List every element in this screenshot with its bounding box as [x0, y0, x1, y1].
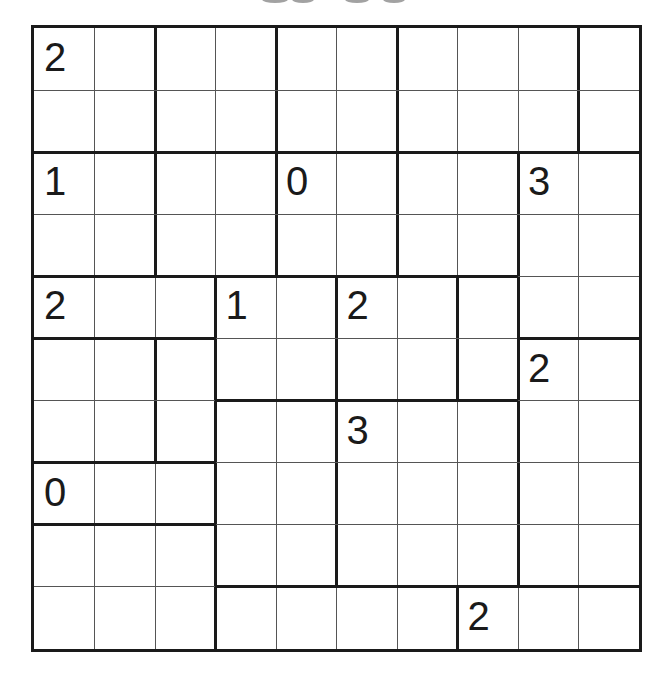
- grid-cell[interactable]: [397, 463, 458, 525]
- grid-cell[interactable]: [518, 28, 579, 90]
- grid-cell[interactable]: [458, 90, 519, 152]
- grid-cell[interactable]: [397, 587, 458, 649]
- grid-cell[interactable]: [95, 90, 156, 152]
- grid-cell[interactable]: [337, 152, 398, 214]
- grid-cell[interactable]: 1: [34, 152, 95, 214]
- grid-cell[interactable]: [34, 214, 95, 276]
- grid-cell[interactable]: [155, 339, 216, 401]
- grid-cell[interactable]: [155, 214, 216, 276]
- grid-cell[interactable]: [216, 90, 277, 152]
- grid-cell[interactable]: 2: [337, 276, 398, 338]
- grid-cell[interactable]: [518, 525, 579, 587]
- grid-cell[interactable]: [155, 90, 216, 152]
- grid-cell[interactable]: [337, 587, 398, 649]
- grid-cell[interactable]: [337, 339, 398, 401]
- grid-cell[interactable]: [337, 28, 398, 90]
- grid-cell[interactable]: [397, 90, 458, 152]
- grid-cell[interactable]: [34, 401, 95, 463]
- grid-cell[interactable]: [337, 214, 398, 276]
- grid-cell[interactable]: [276, 525, 337, 587]
- grid-cell[interactable]: [95, 276, 156, 338]
- grid-cell[interactable]: [276, 276, 337, 338]
- grid-cell[interactable]: [216, 525, 277, 587]
- grid-cell[interactable]: 3: [518, 152, 579, 214]
- grid-cell[interactable]: [397, 401, 458, 463]
- grid-cell[interactable]: [458, 339, 519, 401]
- grid-cell[interactable]: [276, 463, 337, 525]
- grid-cell[interactable]: [458, 214, 519, 276]
- grid-cell[interactable]: [34, 90, 95, 152]
- grid-cell[interactable]: [34, 525, 95, 587]
- grid-cell[interactable]: [95, 525, 156, 587]
- grid-cell[interactable]: 1: [216, 276, 277, 338]
- grid-cell[interactable]: [458, 276, 519, 338]
- grid-cell[interactable]: 2: [458, 587, 519, 649]
- grid-cell[interactable]: [155, 152, 216, 214]
- grid-cell[interactable]: [518, 463, 579, 525]
- grid-cell[interactable]: [216, 152, 277, 214]
- grid-cell[interactable]: [397, 339, 458, 401]
- grid-cell[interactable]: [397, 152, 458, 214]
- grid-cell[interactable]: [458, 28, 519, 90]
- grid-cell[interactable]: [579, 463, 640, 525]
- grid-cell[interactable]: [579, 276, 640, 338]
- grid-cell[interactable]: [276, 401, 337, 463]
- grid-cell[interactable]: [155, 28, 216, 90]
- grid-cell[interactable]: [518, 276, 579, 338]
- grid-cell[interactable]: [518, 214, 579, 276]
- grid-cell[interactable]: [155, 587, 216, 649]
- grid-cell[interactable]: [579, 28, 640, 90]
- grid-cell[interactable]: [276, 28, 337, 90]
- grid-cell[interactable]: [95, 152, 156, 214]
- grid-cell[interactable]: [579, 525, 640, 587]
- grid-cell[interactable]: [337, 525, 398, 587]
- grid-cell[interactable]: [216, 214, 277, 276]
- grid-cell[interactable]: [397, 28, 458, 90]
- grid-cell[interactable]: [579, 90, 640, 152]
- grid-cell[interactable]: [216, 339, 277, 401]
- grid-cell[interactable]: [579, 587, 640, 649]
- grid-cell[interactable]: [276, 587, 337, 649]
- grid-cell[interactable]: [337, 90, 398, 152]
- grid-cell[interactable]: [518, 401, 579, 463]
- grid-cell[interactable]: 0: [34, 463, 95, 525]
- grid-cell[interactable]: [276, 214, 337, 276]
- grid-cell[interactable]: 2: [518, 339, 579, 401]
- grid-cell[interactable]: [95, 214, 156, 276]
- grid-cell[interactable]: [397, 525, 458, 587]
- grid-cell[interactable]: [579, 152, 640, 214]
- grid-cell[interactable]: [155, 525, 216, 587]
- grid-cell[interactable]: [95, 401, 156, 463]
- grid-cell[interactable]: 3: [337, 401, 398, 463]
- grid-cell[interactable]: [397, 214, 458, 276]
- grid-cell[interactable]: [34, 587, 95, 649]
- grid-cell[interactable]: [34, 339, 95, 401]
- grid-cell[interactable]: [458, 525, 519, 587]
- grid-cell[interactable]: [95, 28, 156, 90]
- grid-cell[interactable]: [216, 28, 277, 90]
- grid-cell[interactable]: [216, 587, 277, 649]
- grid-cell[interactable]: 2: [34, 28, 95, 90]
- grid-cell[interactable]: [579, 339, 640, 401]
- grid-cell[interactable]: 2: [34, 276, 95, 338]
- grid-cell[interactable]: [458, 463, 519, 525]
- grid-cell[interactable]: 0: [276, 152, 337, 214]
- grid-cell[interactable]: [458, 152, 519, 214]
- grid-cell[interactable]: [155, 401, 216, 463]
- grid-cell[interactable]: [518, 587, 579, 649]
- grid-cell[interactable]: [458, 401, 519, 463]
- grid-cell[interactable]: [155, 276, 216, 338]
- grid-cell[interactable]: [518, 90, 579, 152]
- grid-cell[interactable]: [155, 463, 216, 525]
- grid-cell[interactable]: [276, 339, 337, 401]
- grid-cell[interactable]: [276, 90, 337, 152]
- grid-cell[interactable]: [216, 401, 277, 463]
- grid-cell[interactable]: [579, 401, 640, 463]
- grid-cell[interactable]: [95, 463, 156, 525]
- grid-cell[interactable]: [337, 463, 398, 525]
- grid-cell[interactable]: [216, 463, 277, 525]
- grid-cell[interactable]: [95, 339, 156, 401]
- grid-cell[interactable]: [579, 214, 640, 276]
- grid-cell[interactable]: [397, 276, 458, 338]
- grid-cell[interactable]: [95, 587, 156, 649]
